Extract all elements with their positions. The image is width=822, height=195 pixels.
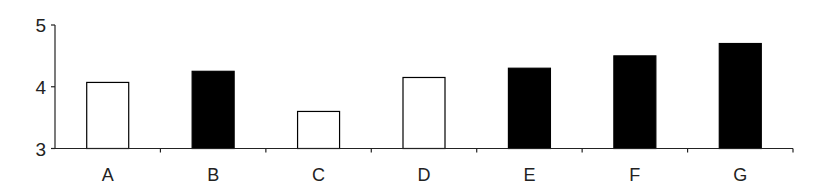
bar-a — [87, 82, 129, 148]
bars — [87, 44, 762, 149]
bar-e — [508, 68, 550, 148]
bar-b — [192, 71, 234, 148]
x-tick-label: B — [207, 165, 219, 185]
chart-canvas: 345 ABCDEFG — [0, 0, 822, 195]
bar-d — [403, 77, 445, 148]
x-tick-label: E — [523, 165, 535, 185]
y-tick-label: 4 — [35, 77, 46, 98]
bar-f — [614, 56, 656, 149]
x-tick-label: C — [312, 165, 325, 185]
bar-g — [719, 44, 761, 149]
bar-c — [298, 111, 340, 148]
x-tick-label: A — [102, 165, 114, 185]
y-tick-label: 3 — [35, 139, 46, 160]
y-tick-label: 5 — [35, 15, 46, 36]
x-tick-label: G — [733, 165, 747, 185]
x-axis: ABCDEFG — [55, 149, 793, 186]
x-tick-label: F — [629, 165, 640, 185]
x-tick-label: D — [418, 165, 431, 185]
bar-chart: 345 ABCDEFG — [0, 0, 822, 195]
y-axis: 345 — [35, 15, 55, 160]
